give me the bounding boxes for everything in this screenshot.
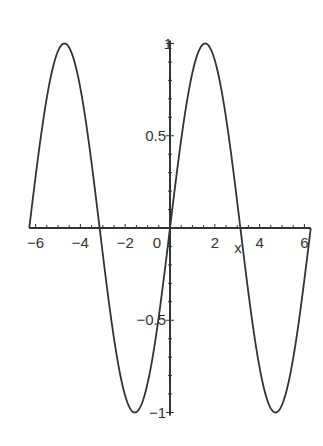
y-tick-label: 1 <box>164 35 172 52</box>
y-tick-label: −1 <box>149 404 166 421</box>
y-tick-label: 0.5 <box>145 127 166 144</box>
x-tick-label: 0 <box>153 234 161 251</box>
x-axis-label: x <box>234 239 242 256</box>
x-tick-label: 4 <box>255 234 263 251</box>
x-tick-label: −6 <box>27 234 44 251</box>
x-tick-label: −2 <box>117 234 134 251</box>
x-tick-label: 6 <box>300 234 308 251</box>
x-tick-label: 2 <box>211 234 219 251</box>
sine-plot: −6−4−2024610.5−0.5−1x <box>0 0 323 446</box>
y-tick-label: −0.5 <box>136 311 166 328</box>
x-tick-label: −4 <box>72 234 89 251</box>
